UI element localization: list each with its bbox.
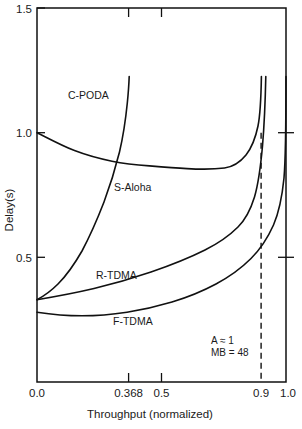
y-axis-title: Delay(s) [3, 188, 15, 231]
annotation-param-mb: MB = 48 [211, 347, 249, 358]
x-tick-label-10: 1.0 [280, 387, 296, 399]
curve-r-tdma [37, 77, 266, 300]
x-tick-label-0368: 0.368 [114, 387, 143, 399]
x-tick-label-0: 0.0 [29, 387, 45, 399]
x-axis-ticks-bottom [129, 373, 162, 382]
y-tick-label-15: 1.5 [16, 3, 32, 15]
x-axis-title: Throughput (normalized) [87, 408, 213, 420]
chart-figure: 0.0 0.368 0.5 0.9 1.0 0.5 1.0 1.5 Throug… [0, 0, 302, 429]
y-tick-label-10: 1.0 [16, 127, 32, 139]
x-tick-label-05: 0.5 [154, 387, 170, 399]
series-label-s-aloha: S-Aloha [114, 181, 152, 193]
series-label-c-poda: C-PODA [68, 89, 109, 101]
x-tick-label-09: 0.9 [253, 387, 269, 399]
series-label-f-tdma: F-TDMA [113, 315, 153, 327]
delay-vs-throughput-chart: 0.0 0.368 0.5 0.9 1.0 0.5 1.0 1.5 Throug… [0, 0, 302, 429]
plot-frame [37, 8, 286, 382]
annotation-param-a: A ≈ 1 [211, 335, 234, 346]
y-tick-label-05: 0.5 [16, 252, 32, 264]
series-label-r-tdma: R-TDMA [96, 269, 137, 281]
x-axis-ticks-top [129, 8, 162, 17]
curve-f-tdma [37, 77, 286, 316]
